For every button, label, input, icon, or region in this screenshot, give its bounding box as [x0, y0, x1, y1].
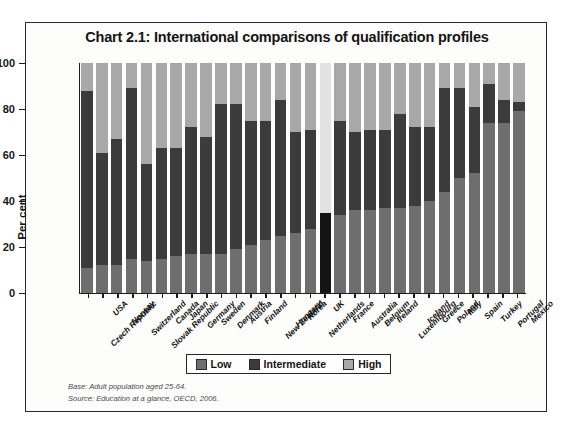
segment-high	[498, 63, 510, 100]
bar-spain	[469, 63, 481, 293]
bar-korea	[290, 63, 302, 293]
segment-high	[469, 63, 481, 107]
x-tick-mark	[176, 293, 178, 298]
segment-high	[96, 63, 108, 153]
segment-low	[141, 261, 153, 293]
segment-int	[126, 88, 138, 258]
bar-sweden	[200, 63, 212, 293]
x-tick-mark	[191, 293, 193, 298]
x-tick-mark	[221, 293, 223, 298]
segment-int	[200, 137, 212, 254]
segment-low	[513, 111, 525, 293]
segment-high	[111, 63, 123, 139]
segment-high	[260, 63, 272, 121]
segment-int	[513, 102, 525, 111]
bar-ireland	[379, 63, 391, 293]
segment-high	[81, 63, 93, 91]
x-tick-mark	[324, 293, 326, 298]
bar-austria	[230, 63, 242, 293]
segment-low	[349, 210, 361, 293]
segment-low	[439, 192, 451, 293]
segment-high	[230, 63, 242, 104]
segment-low	[200, 254, 212, 293]
segment-low	[305, 229, 317, 293]
segment-low	[185, 254, 197, 293]
chart-title: Chart 2.1: International comparisons of …	[26, 29, 548, 45]
legend-swatch-high	[343, 359, 354, 370]
x-tick-mark	[413, 293, 415, 298]
segment-int	[290, 132, 302, 233]
bar-portugal	[498, 63, 510, 293]
bar-group	[80, 63, 526, 293]
segment-int	[498, 100, 510, 123]
bar-denmark	[215, 63, 227, 293]
segment-low	[81, 268, 93, 293]
legend-swatch-low	[196, 359, 207, 370]
bar-norway	[111, 63, 123, 293]
legend-item-high: High	[343, 358, 381, 370]
segment-int	[364, 130, 376, 211]
segment-high	[483, 63, 495, 84]
segment-high	[290, 63, 302, 132]
x-tick-mark	[250, 293, 252, 298]
segment-int	[469, 107, 481, 174]
bar-netherlands	[305, 63, 317, 293]
bar-new-zealand	[260, 63, 272, 293]
segment-int	[245, 121, 257, 245]
bar-slovak-republic	[141, 63, 153, 293]
segment-int	[379, 130, 391, 208]
segment-high	[439, 63, 451, 88]
segment-high	[141, 63, 153, 164]
x-tick-mark	[517, 293, 519, 298]
segment-low	[215, 254, 227, 293]
x-tick-mark	[265, 293, 267, 298]
segment-int	[305, 130, 317, 229]
bar-belgium	[364, 63, 376, 293]
segment-int	[349, 132, 361, 210]
bar-luxembourg	[394, 63, 406, 293]
y-tick-100: 100	[0, 57, 26, 69]
segment-int	[483, 84, 495, 123]
segment-int	[111, 139, 123, 266]
bar-australia	[349, 63, 361, 293]
legend-item-intermediate: Intermediate	[249, 358, 326, 370]
segment-high	[305, 63, 317, 130]
legend-label-high: High	[358, 358, 381, 370]
x-tick-mark	[398, 293, 400, 298]
legend-swatch-intermediate	[249, 359, 260, 370]
segment-high	[334, 63, 346, 121]
segment-low	[111, 265, 123, 293]
segment-high	[200, 63, 212, 137]
bar-canada	[156, 63, 168, 293]
x-axis-labels: Czech RepublicUSANorwaySwitzerlandSlovak…	[79, 299, 525, 359]
segment-low	[469, 173, 481, 293]
segment-low	[275, 236, 287, 294]
segment-low	[483, 123, 495, 293]
x-tick-mark	[354, 293, 356, 298]
segment-low	[424, 201, 436, 293]
y-tick-60: 60	[3, 149, 26, 161]
x-tick-mark	[132, 293, 134, 298]
bar-italy	[454, 63, 466, 293]
chart-legend: LowIntermediateHigh	[186, 354, 391, 374]
x-label-uk: UK	[332, 299, 347, 314]
bar-greece	[424, 63, 436, 293]
segment-low	[334, 215, 346, 293]
x-label-norway: Norway	[130, 299, 157, 326]
bar-france	[334, 63, 346, 293]
y-tick-0: 0	[9, 287, 26, 299]
segment-low	[379, 208, 391, 293]
segment-high	[394, 63, 406, 114]
segment-low	[170, 256, 182, 293]
x-tick-mark	[117, 293, 119, 298]
segment-low	[126, 259, 138, 294]
plot-area	[79, 63, 526, 294]
segment-low	[320, 213, 332, 294]
segment-int	[185, 127, 197, 254]
segment-int	[409, 127, 421, 205]
segment-int	[320, 63, 332, 213]
segment-int	[454, 88, 466, 178]
bar-poland	[439, 63, 451, 293]
x-tick-mark	[206, 293, 208, 298]
x-tick-mark	[88, 293, 90, 298]
